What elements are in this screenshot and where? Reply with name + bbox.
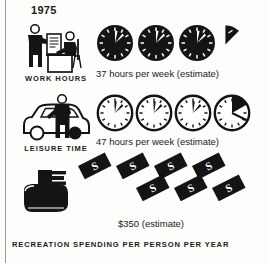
dollar-bill-unit: S bbox=[136, 174, 170, 201]
unit-group-leisure-time bbox=[96, 94, 246, 138]
footer-label: RECREATION SPENDING PER PERSON PER YEAR bbox=[12, 240, 229, 249]
clock-unit-partial-wedge bbox=[215, 96, 249, 130]
infographic-panel: 1975 bbox=[0, 0, 267, 263]
row-work-hours: WORK HOURS bbox=[0, 22, 267, 92]
clock-unit-outline bbox=[98, 96, 132, 130]
clock-unit-outline bbox=[176, 96, 210, 130]
category-label-work-hours: WORK HOURS bbox=[10, 74, 102, 83]
clock-unit-partial bbox=[226, 26, 238, 43]
car-and-person-icon bbox=[18, 92, 94, 144]
unit-group-work-hours bbox=[96, 24, 246, 68]
unit-group-recreation-spending: S S S S S bbox=[74, 162, 244, 218]
category-label-leisure-time: LEISURE TIME bbox=[10, 144, 102, 153]
clock-unit-filled bbox=[138, 25, 174, 61]
dollar-bill-unit: S bbox=[174, 174, 208, 201]
dollar-bill-unit: S bbox=[212, 174, 246, 201]
office-worker-icon bbox=[18, 22, 94, 74]
row-recreation-spending: S S S S S bbox=[0, 162, 267, 234]
clock-unit-outline bbox=[137, 96, 171, 130]
caption-recreation-spending: $350 (estimate) bbox=[118, 218, 184, 229]
caption-leisure-time: 47 hours per week (estimate) bbox=[96, 136, 219, 147]
clock-unit-filled bbox=[97, 25, 133, 61]
caption-work-hours: 37 hours per week (estimate) bbox=[96, 68, 219, 79]
page-title: 1975 bbox=[31, 4, 57, 16]
row-leisure-time: LEISURE TIME bbox=[0, 92, 267, 162]
clock-unit-filled bbox=[179, 25, 215, 61]
